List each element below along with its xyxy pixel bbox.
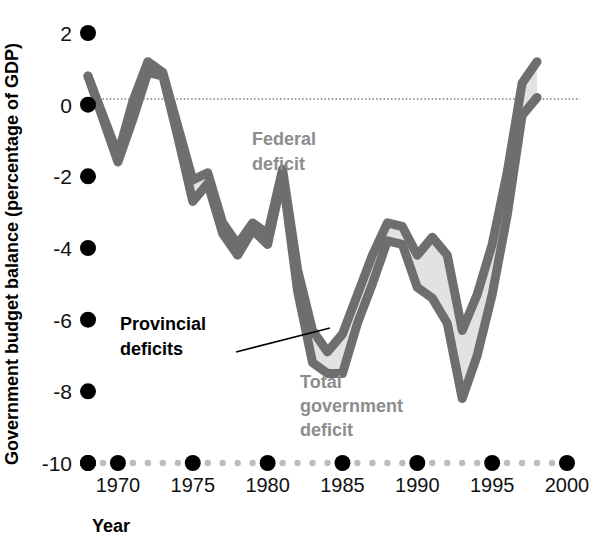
x-tick-label: 2000	[545, 474, 590, 496]
x-tick-dot-major	[409, 455, 425, 471]
y-tick-label: -4	[53, 237, 72, 260]
annotation-federal-deficit: Federal deficit	[252, 129, 316, 174]
y-tick-dot	[80, 240, 96, 256]
x-tick-dot-minor	[145, 460, 151, 466]
y-tick-dot	[80, 168, 96, 184]
annotation-provincial-deficits: Provincial deficits	[120, 314, 330, 359]
y-tick-label: -6	[53, 309, 72, 332]
budget-balance-chart: 20-2-4-6-8-10 19701975198019851990199520…	[0, 0, 604, 542]
x-tick-dot-major	[559, 455, 575, 471]
annotation-provincial-line-2: deficits	[120, 339, 183, 359]
x-tick-dot-minor	[234, 460, 240, 466]
annotation-total-line-2: government	[300, 396, 403, 416]
y-tick-dot	[80, 25, 96, 41]
x-tick-dot-minor	[459, 460, 465, 466]
x-tick-label: 1980	[245, 474, 290, 496]
x-tick-dot-minor	[534, 460, 540, 466]
y-tick-dot	[80, 312, 96, 328]
x-tick-dot-minor	[205, 460, 211, 466]
x-tick-dot-major	[80, 455, 96, 471]
annotation-federal-line-2: deficit	[252, 154, 305, 174]
x-tick-dot-minor	[519, 460, 525, 466]
x-tick-dot-minor	[369, 460, 375, 466]
x-tick-dot-minor	[324, 460, 330, 466]
y-axis-title: Government budget balance (percentage of…	[2, 43, 22, 465]
x-tick-label: 1970	[96, 474, 141, 496]
x-tick-dot-minor	[384, 460, 390, 466]
x-tick-dot-minor	[175, 460, 181, 466]
x-tick-label: 1975	[171, 474, 216, 496]
x-tick-label: 1995	[470, 474, 515, 496]
y-tick-label: -2	[53, 165, 72, 188]
x-tick-dot-minor	[294, 460, 300, 466]
x-tick-dot-major	[484, 455, 500, 471]
x-tick-label: 1990	[395, 474, 440, 496]
x-tick-dot-minor	[429, 460, 435, 466]
y-tick-dot	[80, 383, 96, 399]
annotation-federal-line-1: Federal	[252, 129, 316, 149]
x-tick-dot-minor	[474, 460, 480, 466]
x-tick-dot-minor	[249, 460, 255, 466]
x-tick-dot-minor	[399, 460, 405, 466]
annotation-total-line-1: Total	[300, 372, 342, 392]
x-tick-dot-major	[334, 455, 350, 471]
annotation-total-government-deficit: Total government deficit	[300, 372, 403, 440]
y-axis: 20-2-4-6-8-10	[42, 22, 96, 475]
annotation-total-line-3: deficit	[300, 420, 353, 440]
x-tick-dot-minor	[220, 460, 226, 466]
x-tick-label: 1985	[320, 474, 365, 496]
x-axis: 1970197519801985199019952000	[80, 455, 589, 496]
x-tick-dot-minor	[130, 460, 136, 466]
x-tick-dot-minor	[444, 460, 450, 466]
x-tick-dot-minor	[504, 460, 510, 466]
y-tick-label: 0	[60, 94, 72, 117]
x-tick-dot-major	[185, 455, 201, 471]
annotation-provincial-line-1: Provincial	[120, 314, 206, 334]
y-tick-label: -10	[42, 452, 72, 475]
x-tick-dot-minor	[309, 460, 315, 466]
x-tick-dot-minor	[354, 460, 360, 466]
y-tick-label: 2	[60, 22, 72, 45]
y-tick-label: -8	[53, 380, 72, 403]
federal-deficit-line	[88, 62, 537, 352]
chart-container: 20-2-4-6-8-10 19701975198019851990199520…	[0, 0, 604, 542]
x-tick-dot-major	[110, 455, 126, 471]
y-tick-dot	[80, 97, 96, 113]
x-tick-dot-minor	[100, 460, 106, 466]
x-tick-dot-minor	[160, 460, 166, 466]
x-axis-title: Year	[92, 516, 130, 536]
x-tick-dot-major	[260, 455, 276, 471]
x-tick-dot-minor	[279, 460, 285, 466]
x-tick-dot-minor	[549, 460, 555, 466]
